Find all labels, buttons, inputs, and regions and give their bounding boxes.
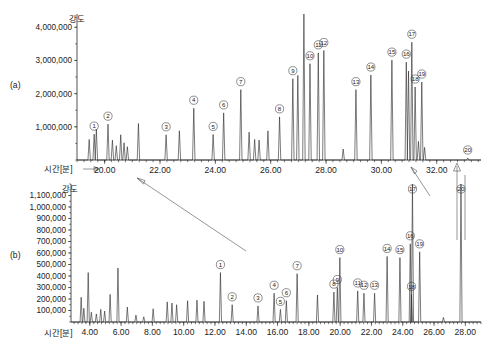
peak-number: 1: [219, 261, 223, 268]
peak-number: 3: [256, 294, 260, 301]
peak-number: 19: [418, 70, 425, 77]
panel-a: 강도 (a) 시간[분] 1,000,0002,000,0003,000,000…: [10, 14, 481, 175]
peak-number: 7: [239, 78, 243, 85]
peak-marker: 8: [275, 105, 283, 113]
peak-marker: 19: [416, 240, 424, 248]
peak-marker: 3: [162, 123, 170, 131]
x-tick-label: 30.00: [371, 165, 393, 175]
x-tick-label: 10.00: [173, 327, 195, 337]
annotation-layer: [137, 163, 465, 251]
peak-number: 14: [367, 63, 374, 70]
peak-number: 4: [192, 96, 196, 103]
peak-number: 4: [272, 281, 276, 288]
peak-marker: 9: [289, 67, 297, 75]
peak-marker: 2: [104, 112, 112, 120]
peak-marker: 12: [360, 281, 368, 289]
peak-number: 9: [336, 276, 340, 283]
peak-marker: 19: [418, 70, 426, 78]
peak-number: 15: [397, 246, 404, 253]
peak-marker: 4: [270, 281, 278, 289]
peak-number: 20: [458, 185, 465, 192]
panel-b-trace: [71, 184, 481, 322]
x-tick-label: 6.00: [113, 327, 130, 337]
peak-number: 12: [361, 281, 368, 288]
peak-number: 7: [295, 262, 299, 269]
peak-number: 12: [320, 39, 327, 46]
peak-marker: 5: [209, 122, 217, 130]
peak-number: 17: [408, 30, 415, 37]
x-tick-label: 26.00: [423, 327, 445, 337]
panel-b-peak-labels: 1234567891011121314151617181920: [216, 185, 465, 306]
y-tick-label: 100,000: [36, 306, 66, 315]
peak-number: 14: [384, 245, 391, 252]
peak-number: 13: [353, 78, 360, 85]
x-tick-label: 22.00: [149, 165, 171, 175]
panel-b-y-ticklabels: 100,000200,000300,000400,000500,000600,0…: [30, 191, 67, 315]
peak-number: 2: [230, 293, 234, 300]
peak-marker: 7: [293, 262, 301, 270]
diagonal-annotation-arrow: [137, 178, 246, 251]
peak-marker: 5: [276, 297, 284, 305]
peak-number: 9: [291, 67, 295, 74]
y-tick-label: 800,000: [36, 226, 66, 235]
panel-a-label: (a): [10, 80, 21, 90]
peak-marker: 1: [90, 122, 98, 130]
x-tick-label: 20.00: [329, 327, 351, 337]
panel-b-label: (b): [10, 250, 21, 260]
peak-number: 5: [211, 123, 215, 130]
x-tick-label: 4.00: [81, 327, 98, 337]
peak-marker: 10: [336, 246, 344, 254]
peak-number: 20: [464, 146, 471, 153]
x-tick-label: 22.00: [361, 327, 383, 337]
peak-marker: 14: [383, 244, 391, 252]
y-tick-label: 4,000,000: [36, 23, 73, 32]
peak-number: 16: [407, 232, 414, 239]
panel-b-x-ticklabels: 4.006.008.0010.0012.0014.0016.0018.0020.…: [81, 327, 476, 337]
x-tick-label: 12.00: [204, 327, 226, 337]
x-tick-label: 20.00: [94, 165, 116, 175]
y-tick-label: 1,100,000: [30, 191, 67, 200]
peak-marker: 15: [388, 48, 396, 56]
panel-b-x-axis-title: 시간[분]: [44, 328, 73, 338]
peak-number: 6: [285, 289, 289, 296]
y-tick-label: 200,000: [36, 295, 66, 304]
x-tick-label: 14.00: [236, 327, 258, 337]
y-tick-label: 600,000: [36, 249, 66, 258]
peak-number: 1: [92, 122, 96, 129]
peak-number: 13: [371, 281, 378, 288]
peak-number: 18: [408, 283, 415, 290]
panel-a-trace: [77, 14, 481, 160]
peak-number: 17: [409, 185, 416, 192]
peak-number: 2: [106, 112, 110, 119]
x-tick-label: 16.00: [267, 327, 289, 337]
y-tick-label: 1,000,000: [36, 123, 73, 132]
peak-marker: 16: [402, 50, 410, 58]
peak-marker: 20: [464, 146, 472, 154]
y-tick-label: 3,000,000: [36, 56, 73, 65]
y-tick-label: 300,000: [36, 283, 66, 292]
y-tick-label: 500,000: [36, 260, 66, 269]
figure-svg: 강도 (a) 시간[분] 1,000,0002,000,0003,000,000…: [0, 0, 485, 347]
x-tick-label: 8.00: [144, 327, 161, 337]
panel-a-x-ticklabels: 20.0022.0024.0026.0028.0030.0032.00: [94, 165, 448, 175]
peak-marker: 10: [306, 52, 314, 60]
x-tick-label: 24.00: [205, 165, 227, 175]
peak-number: 19: [416, 240, 423, 247]
peak-marker: 13: [352, 78, 360, 86]
y-tick-label: 400,000: [36, 272, 66, 281]
peak-marker: 6: [220, 101, 228, 109]
peak-marker: 3: [254, 294, 262, 302]
peak-number: 6: [222, 101, 226, 108]
y-tick-label: 900,000: [36, 214, 66, 223]
chromatogram-figure: 강도 (a) 시간[분] 1,000,0002,000,0003,000,000…: [0, 0, 485, 347]
peak-marker: 17: [408, 185, 416, 193]
peak-number: 15: [389, 48, 396, 55]
peak-marker: 16: [406, 232, 414, 240]
peak-marker: 6: [282, 289, 290, 297]
peak-number: 3: [164, 123, 168, 130]
panel-a-x-axis-title: 시간[분]: [44, 164, 73, 174]
peak-marker: 4: [190, 96, 198, 104]
peak-marker: 14: [367, 63, 375, 71]
x-tick-label: 32.00: [426, 165, 448, 175]
panel-a-y-ticklabels: 1,000,0002,000,0003,000,0004,000,000: [36, 23, 73, 132]
